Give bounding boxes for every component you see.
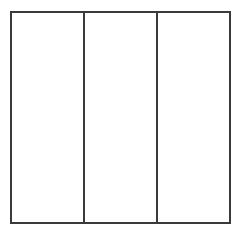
partitioned-square [10, 11, 231, 224]
strip-2 [83, 13, 156, 222]
strip-3 [156, 13, 229, 222]
strip-1 [12, 13, 83, 222]
